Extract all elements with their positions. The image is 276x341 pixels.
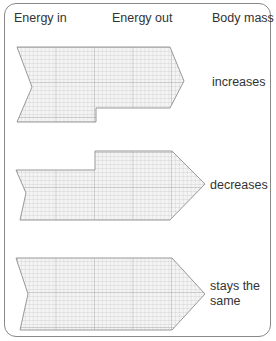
arrow-decreases (16, 151, 205, 220)
arrow-stays-same (16, 258, 205, 330)
label-stays-line2: same (210, 294, 241, 308)
label-stays-the-same: stays the same (210, 279, 260, 309)
arrow-increases (17, 47, 184, 122)
label-increases: increases (212, 75, 266, 90)
label-stays-line1: stays the (210, 279, 260, 293)
label-decreases: decreases (210, 178, 268, 193)
